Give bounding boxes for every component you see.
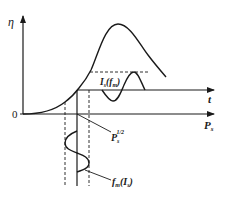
ps-axis-label: Ps [204,119,214,133]
modulation-label: fm(Is) [112,176,133,188]
eta-axis-label: η [8,15,14,29]
pump-power-leader [77,114,111,132]
pump-power-label: Ps1/2 [111,129,124,144]
svg-text:fm(Is): fm(Is) [112,176,133,188]
transfer-curve [23,24,166,114]
diagram-svg: η 0 t Ps Is(fm) Ps1/2 fm(Is) [0,0,227,199]
svg-text:Ps: Ps [204,119,214,133]
svg-text:Is(fm): Is(fm) [99,77,120,88]
output-signal-label: Is(fm) [99,77,120,88]
t-axis-label: t [208,93,212,105]
diagram-canvas: η 0 t Ps Is(fm) Ps1/2 fm(Is) [0,0,227,199]
origin-label: 0 [12,108,18,120]
svg-text:Ps1/2: Ps1/2 [111,129,124,144]
